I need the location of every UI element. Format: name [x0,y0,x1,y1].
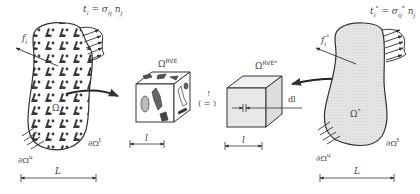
rve-cube [130,72,190,148]
body-force-label-homogeneous: fi* [321,34,329,47]
boundary-u-label: ∂Ωu [18,154,33,165]
rve-homogeneous-cube [225,76,302,150]
traction-label: ti = σij nj [83,5,122,16]
traction-arrows-homogeneous [384,30,403,60]
boundary-t-label: ∂Ωt [88,137,101,148]
equivalence-mark: ! [207,90,210,98]
domain-label: Ω [51,104,60,113]
traction-label-homogeneous: ti* = σij* nj [370,5,415,18]
boundary-u-label-homogeneous: ∂Ωu [316,152,331,163]
body-force-label: fi [22,34,27,45]
rve-label: ΩRVE [158,58,177,69]
rve-length-label: l [145,134,148,143]
boundary-t-label-homogeneous: ∂Ωt [386,137,399,148]
length-L-label-homogeneous: L [354,167,360,176]
domain-label-homogeneous: Ω* [350,108,360,119]
equivalence-symbol: ( = ) [198,100,216,108]
dl-label: dl [288,96,296,104]
rve-homog-length-label: l [242,136,245,145]
rve-homog-label: ΩRVE* [255,60,277,71]
length-L-label: L [55,167,61,176]
